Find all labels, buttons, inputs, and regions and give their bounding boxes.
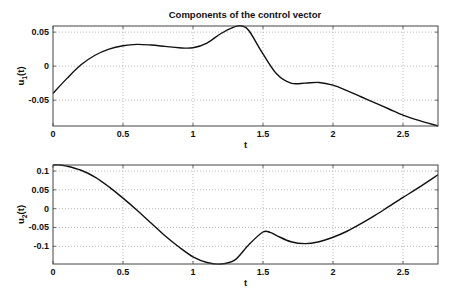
x-tick-label: 2	[330, 129, 335, 139]
axes-frame	[53, 26, 438, 126]
x-tick-label: 1	[190, 129, 195, 139]
x-tick-label: 2.5	[397, 129, 410, 139]
series-line-u1	[53, 26, 438, 126]
x-axis-label: t	[244, 277, 248, 288]
x-tick-label: 2	[330, 267, 335, 277]
y-tick-label: 0.05	[31, 185, 49, 195]
x-tick-label: 1.5	[257, 129, 270, 139]
x-axis-label: t	[244, 139, 248, 150]
y-axis-label: u2(t)	[15, 205, 28, 224]
y-tick-label: 0	[44, 204, 49, 214]
x-tick-label: 1.5	[257, 267, 270, 277]
y-tick-label: 0	[44, 61, 49, 71]
x-tick-label: 0	[50, 267, 55, 277]
chart-title: Components of the control vector	[169, 9, 322, 20]
series-line-u2	[53, 165, 438, 264]
y-tick-label: 0.1	[36, 166, 49, 176]
y-tick-label: -0.05	[28, 222, 49, 232]
x-tick-label: 0	[50, 129, 55, 139]
axes-u2: 00.511.522.50.10.050-0.05-0.1tu2(t)	[15, 165, 438, 288]
y-axis-label: u1(t)	[15, 66, 28, 85]
y-tick-label: 0.05	[31, 27, 49, 37]
y-tick-label: -0.05	[28, 95, 49, 105]
y-tick-label: -0.1	[33, 241, 49, 251]
control-vector-figure: Components of the control vector 00.511.…	[0, 0, 453, 296]
x-tick-label: 0.5	[117, 267, 130, 277]
x-tick-label: 2.5	[397, 267, 410, 277]
x-tick-label: 1	[190, 267, 195, 277]
axes-u1: 00.511.522.50.050-0.05tu1(t)	[15, 26, 438, 150]
x-tick-label: 0.5	[117, 129, 130, 139]
